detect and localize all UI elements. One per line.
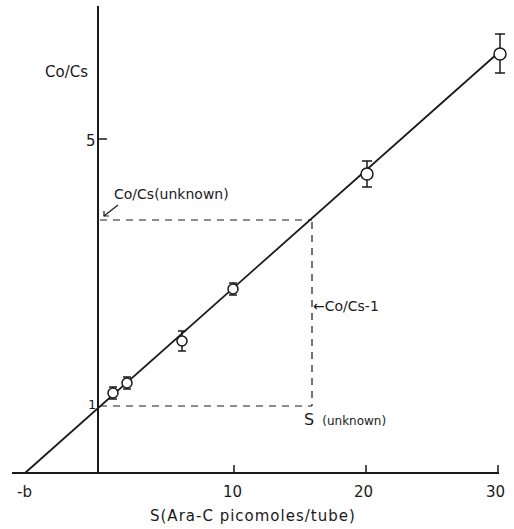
data-point [122, 377, 132, 389]
data-point [177, 331, 187, 351]
arrow-icon [104, 205, 118, 216]
x-axis-label: S(Ara-C picomoles/tube) [150, 507, 356, 525]
x-tick-label-b: -b [17, 483, 32, 501]
x-tick-label-30: 30 [486, 483, 505, 501]
annotation-co-cs-unknown: Co/Cs(unknown) [114, 186, 229, 202]
annotation-s-unknown: S (unknown) [304, 410, 386, 429]
chart: Co/Cs 5 1 -b 10 20 30 S(Ara-C picomoles/… [0, 0, 514, 529]
y-axis-label: Co/Cs [45, 63, 88, 81]
y-tick-label-1: 1 [88, 397, 96, 412]
data-point [108, 387, 118, 399]
x-tick-label-10: 10 [223, 483, 242, 501]
y-tick-label-5: 5 [86, 132, 96, 150]
data-point [228, 283, 238, 295]
annotation-co-cs-minus-1: ←Co/Cs-1 [313, 298, 379, 314]
data-point [494, 34, 506, 73]
annotation-s: S [304, 410, 314, 429]
annotation-s-subscript: (unknown) [322, 414, 386, 428]
x-tick-label-20: 20 [354, 483, 373, 501]
x-ticks [234, 465, 498, 473]
data-points [108, 34, 506, 399]
